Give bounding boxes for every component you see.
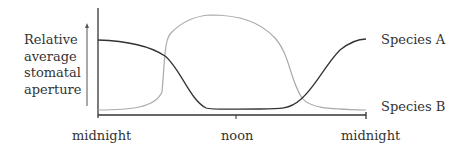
species-a-curve — [98, 39, 366, 109]
species-b-curve — [98, 15, 366, 110]
legend-species-b: Species B — [381, 99, 445, 114]
x-tick-noon: noon — [221, 128, 253, 143]
x-tick-midnight-end: midnight — [341, 128, 400, 143]
y-arrow-head — [85, 23, 89, 28]
legend-species-a: Species A — [381, 32, 445, 47]
x-tick-midnight-start: midnight — [72, 128, 131, 143]
